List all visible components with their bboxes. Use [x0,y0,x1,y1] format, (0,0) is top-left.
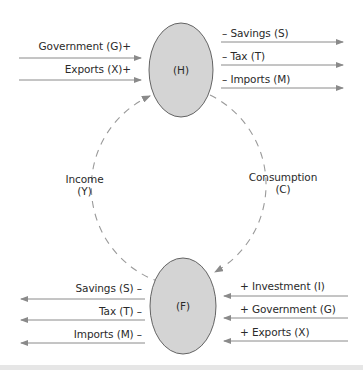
f-injection-label-government: + Government (G) [240,303,336,315]
h-leakage-label-savings: – Savings (S) [222,27,289,39]
f-leakage-label-savings: Savings (S) – [75,282,142,294]
income-label-line2: (Y) [62,185,107,197]
h-injection-label-exports: Exports (X)+ [65,63,131,75]
firms-label: (F) [168,300,198,312]
bottom-border-band [0,365,363,370]
consumption-label-line2: (C) [248,183,318,195]
income-flow-label: Income (Y) [62,173,107,197]
consumption-label-line1: Consumption [248,171,318,183]
consumption-flow-label: Consumption (C) [248,171,318,195]
f-injection-label-exports: + Exports (X) [240,326,309,338]
h-injection-label-government: Government (G)+ [39,40,131,52]
f-leakage-label-imports: Imports (M) – [74,328,142,340]
h-leakage-label-imports: – Imports (M) [222,73,290,85]
f-leakage-label-tax: Tax (T) – [99,305,142,317]
h-leakage-label-tax: – Tax (T) [222,50,265,62]
f-injection-label-investment: + Investment (I) [240,280,325,292]
income-label-line1: Income [62,173,107,185]
households-label: (H) [166,64,196,76]
